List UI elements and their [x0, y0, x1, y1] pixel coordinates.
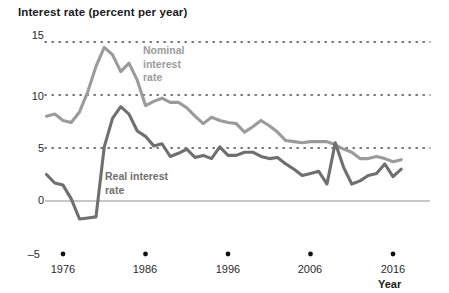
x-tick-dot-2016	[391, 252, 396, 257]
x-tick-dot-2006	[308, 252, 313, 257]
series-line-real-interest-rate	[47, 107, 402, 219]
x-tick-dot-1996	[226, 252, 231, 257]
x-tick-dot-1976	[61, 252, 66, 257]
plot-area	[0, 0, 449, 293]
x-axis-tick-marks	[61, 252, 396, 257]
x-tick-dot-1986	[143, 252, 148, 257]
gridlines	[45, 42, 430, 148]
interest-rate-chart: Interest rate (percent per year) 15 10 5…	[0, 0, 449, 293]
series-line-nominal-interest-rate	[47, 47, 402, 161]
